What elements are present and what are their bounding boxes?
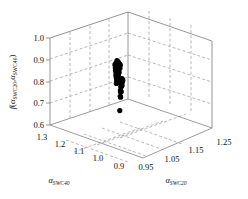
y-tick-label-1: 1.2 bbox=[55, 139, 66, 149]
x-axis-title: αSWC20 bbox=[165, 175, 186, 186]
data-point bbox=[114, 81, 119, 86]
z-tick-label-0: 1.0 bbox=[33, 33, 44, 43]
y-tick-label-4: 0.9 bbox=[114, 161, 125, 171]
x-tick-label-3: 1.25 bbox=[217, 137, 232, 147]
scatter3d-plot: 1.0 0.9 0.8 0.7 0.6 1.3 1.2 1.1 1.0 0.9 … bbox=[0, 0, 248, 199]
y-tick-label-3: 1.0 bbox=[93, 153, 104, 163]
x-tick-label-1: 1.05 bbox=[165, 154, 180, 164]
y-axis-title: αSWC40 bbox=[48, 175, 69, 186]
y-tick-label-0: 1.3 bbox=[37, 132, 48, 142]
x-tick-label-2: 1.15 bbox=[189, 145, 204, 155]
x-axis-title-sub: SWC20 bbox=[170, 180, 187, 186]
right-wall-grid bbox=[128, 11, 212, 111]
z-tick-label-3: 0.7 bbox=[33, 98, 44, 108]
data-point bbox=[117, 108, 122, 113]
axes-box bbox=[50, 12, 212, 128]
data-point-cloud bbox=[112, 58, 125, 113]
data-point bbox=[118, 95, 123, 100]
z-axis-title: f(αSWC20,αSWC40) bbox=[7, 55, 18, 110]
z-tick-label-1: 0.9 bbox=[33, 55, 44, 65]
z-axis-title-alpha2-sub: SWC40 bbox=[12, 57, 18, 75]
chart-figure: 1.0 0.9 0.8 0.7 0.6 1.3 1.2 1.1 1.0 0.9 … bbox=[0, 0, 248, 199]
x-tick-label-0: 0.95 bbox=[139, 162, 154, 172]
y-axis-title-sub: SWC40 bbox=[53, 180, 70, 186]
z-tick-label-4: 0.6 bbox=[33, 120, 44, 130]
z-axis-title-close: ) bbox=[7, 55, 17, 58]
z-tick-label-2: 0.8 bbox=[33, 77, 44, 87]
y-tick-label-2: 1.1 bbox=[74, 146, 85, 156]
z-axis-title-alpha1-sub: SWC20 bbox=[12, 82, 18, 100]
z-axis-ticks bbox=[46, 38, 50, 125]
